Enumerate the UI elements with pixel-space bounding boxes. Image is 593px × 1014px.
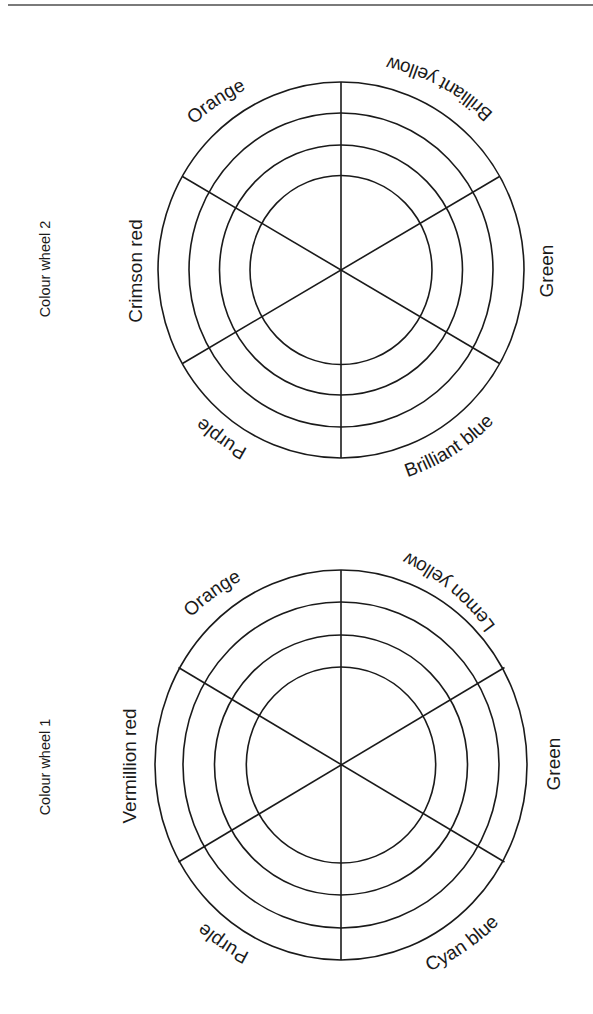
colour-wheel-1: Orange Lemon yellow Cyan blue Purple Ver… <box>37 548 564 975</box>
label-top-left: Orange <box>179 565 244 620</box>
label-top-right: Lemon yellow <box>399 548 499 636</box>
label-left: Vermillion red <box>119 708 140 823</box>
label-right: Green <box>543 738 564 791</box>
colour-wheels-diagram: Orange Brilliant yellow Brilliant blue P… <box>0 0 593 1014</box>
label-bottom-left: Purple <box>192 414 250 464</box>
wheel-caption: Colour wheel 1 <box>37 719 53 816</box>
label-left: Crimson red <box>125 219 146 322</box>
label-bottom-right: Cyan blue <box>422 911 502 975</box>
colour-wheel-2: Orange Brilliant yellow Brilliant blue P… <box>37 53 557 481</box>
label-bottom-left: Purple <box>193 919 251 967</box>
label-top-right: Brilliant yellow <box>384 53 496 126</box>
wheel-caption: Colour wheel 2 <box>37 221 53 318</box>
label-right: Green <box>536 245 557 298</box>
label-top-left: Orange <box>183 74 248 128</box>
